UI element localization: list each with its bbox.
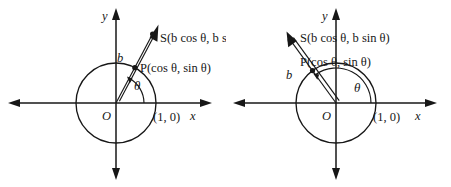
- point-s-dot: [288, 37, 293, 42]
- x-axis-right-arrow-icon: [425, 99, 437, 107]
- unit-point-label: (1, 0): [153, 110, 180, 124]
- segment-b-label: b: [286, 68, 292, 82]
- point-s-label: S(b cos θ, b sin θ): [300, 31, 390, 45]
- y-axis-down-arrow-icon: [332, 168, 340, 180]
- y-axis-label: y: [100, 9, 108, 23]
- origin-label: O: [322, 109, 331, 123]
- point-s-label: S(b cos θ, b sin θ): [160, 31, 226, 45]
- point-p-label: P(cos θ, sin θ): [300, 55, 371, 69]
- ray-line-right-edge: [293, 38, 339, 101]
- point-s-dot: [150, 31, 155, 36]
- figure-board: x y O (1, 0) P(cos θ, sin θ) S(b cos θ, …: [0, 0, 451, 187]
- point-p-dot: [132, 65, 137, 70]
- x-axis-left-arrow-icon: [8, 99, 20, 107]
- segment-b-label: b: [117, 51, 123, 65]
- x-axis-label: x: [189, 109, 196, 123]
- obtuse-angle-panel: x y O (1, 0) P(cos θ, sin θ) S(b cos θ, …: [225, 0, 451, 187]
- point-p-label: P(cos θ, sin θ): [140, 61, 211, 75]
- unit-point-label: (1, 0): [373, 110, 400, 124]
- acute-angle-panel: x y O (1, 0) P(cos θ, sin θ) S(b cos θ, …: [0, 0, 226, 187]
- y-axis-up-arrow-icon: [332, 8, 340, 20]
- x-axis-right-arrow-icon: [200, 99, 212, 107]
- y-axis-down-arrow-icon: [112, 168, 120, 180]
- origin-label: O: [102, 109, 111, 123]
- y-axis-label: y: [320, 9, 328, 23]
- theta-label: θ: [134, 78, 141, 93]
- x-axis-left-arrow-icon: [233, 99, 245, 107]
- x-axis-label: x: [414, 109, 421, 123]
- theta-label: θ: [354, 80, 361, 95]
- y-axis-up-arrow-icon: [112, 8, 120, 20]
